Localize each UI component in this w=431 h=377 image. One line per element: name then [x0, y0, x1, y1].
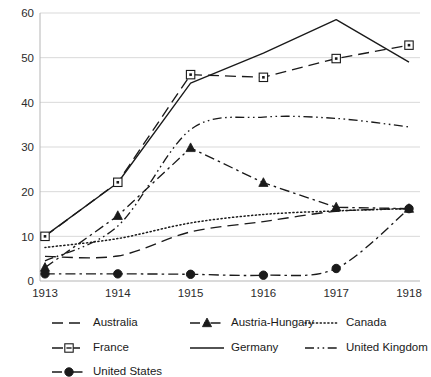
- legend-item-united-states[interactable]: United States: [52, 365, 162, 377]
- y-axis-tick-labels: 0102030405060: [21, 7, 34, 287]
- legend-item-france[interactable]: France: [52, 341, 129, 353]
- legend-label: Canada: [346, 316, 387, 328]
- x-tick-label: 1915: [178, 287, 204, 299]
- y-tick-label: 40: [21, 97, 34, 109]
- legend-label: Australia: [93, 316, 138, 328]
- x-tick-label: 1913: [32, 287, 58, 299]
- y-tick-label: 20: [21, 186, 34, 198]
- series-line-united-states: [45, 209, 409, 276]
- data-point-marker: [113, 211, 122, 220]
- legend-item-canada[interactable]: Canada: [305, 316, 387, 328]
- legend-label: United States: [93, 365, 162, 377]
- y-tick-label: 0: [28, 275, 34, 287]
- series-line-germany: [45, 20, 409, 236]
- y-tick-label: 30: [21, 141, 34, 153]
- series-line-australia: [45, 209, 409, 258]
- legend-item-australia[interactable]: Australia: [52, 316, 138, 328]
- y-tick-label: 50: [21, 52, 34, 64]
- data-point-marker: [114, 178, 122, 186]
- data-point-marker: [259, 271, 267, 279]
- legend-label: Germany: [231, 341, 279, 353]
- x-tick-label: 1917: [323, 287, 349, 299]
- legend-item-united-kingdom[interactable]: United Kingdom: [305, 341, 428, 353]
- data-point-marker: [259, 178, 268, 187]
- chart-canvas: 0102030405060 191319141915191619171918 A…: [0, 0, 431, 377]
- legend: AustraliaAustria-HungaryCanadaFranceGerm…: [52, 316, 428, 377]
- series-line-austria-hungary: [45, 148, 409, 268]
- legend-label: France: [93, 341, 129, 353]
- data-point-marker: [332, 54, 340, 62]
- legend-item-germany[interactable]: Germany: [190, 341, 279, 353]
- data-markers-group: [40, 41, 413, 279]
- data-point-marker: [186, 70, 194, 78]
- legend-marker-sample: [65, 344, 73, 352]
- legend-marker-sample: [202, 318, 211, 327]
- legend-item-austria-hungary[interactable]: Austria-Hungary: [190, 316, 314, 328]
- y-tick-label: 60: [21, 7, 34, 19]
- data-point-marker: [41, 270, 49, 278]
- data-point-marker: [186, 270, 194, 278]
- data-point-marker: [405, 41, 413, 49]
- x-tick-label: 1918: [396, 287, 422, 299]
- x-tick-label: 1914: [105, 287, 131, 299]
- data-point-marker: [114, 270, 122, 278]
- legend-label: United Kingdom: [346, 341, 428, 353]
- x-axis-tick-labels: 191319141915191619171918: [32, 287, 422, 299]
- y-tick-label: 10: [21, 231, 34, 243]
- series-line-united-kingdom: [45, 116, 409, 261]
- legend-label: Austria-Hungary: [231, 316, 314, 328]
- x-tick-label: 1916: [251, 287, 277, 299]
- legend-marker-sample: [65, 368, 73, 376]
- data-point-marker: [405, 204, 413, 212]
- data-point-marker: [41, 232, 49, 240]
- line-chart: 0102030405060 191319141915191619171918 A…: [0, 0, 431, 377]
- data-point-marker: [332, 264, 340, 272]
- data-point-marker: [259, 73, 267, 81]
